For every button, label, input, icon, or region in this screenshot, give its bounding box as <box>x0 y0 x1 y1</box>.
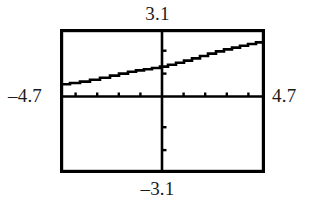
window-ymin-label: –3.1 <box>0 179 315 198</box>
plot-area <box>60 29 265 173</box>
window-xmin-label: –4.7 <box>8 86 42 105</box>
calculator-graph-figure: 3.1 –4.7 4.7 –3.1 <box>0 0 315 206</box>
window-ymax-label: 3.1 <box>0 4 315 23</box>
window-xmax-label: 4.7 <box>272 86 296 105</box>
graph-svg <box>60 29 265 173</box>
